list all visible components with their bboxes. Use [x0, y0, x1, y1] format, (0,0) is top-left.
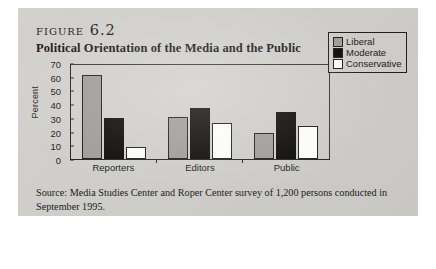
bar-liberal-editors[interactable] — [168, 117, 188, 160]
y-axis-label: Percent — [30, 86, 40, 118]
plot-area — [70, 64, 330, 160]
legend-item-liberal[interactable]: Liberal — [333, 36, 401, 47]
legend-item-moderate[interactable]: Moderate — [333, 47, 401, 58]
legend-swatch-conservative-icon — [333, 59, 343, 69]
x-axis-labels: ReportersEditorsPublic — [70, 162, 330, 176]
bar-liberal-public[interactable] — [254, 133, 274, 159]
bar-conservative-public[interactable] — [298, 126, 318, 159]
bar-moderate-public[interactable] — [276, 112, 296, 159]
legend-label: Moderate — [346, 47, 386, 58]
y-axis-ticks: 010203040506070 — [42, 64, 66, 160]
y-tick-label: 40 — [50, 100, 61, 111]
y-tick-label: 70 — [50, 59, 61, 70]
bar-liberal-reporters[interactable] — [82, 75, 102, 159]
legend-swatch-moderate-icon — [333, 48, 343, 58]
bar-group — [243, 65, 329, 159]
legend-item-conservative[interactable]: Conservative — [333, 58, 401, 69]
figure-panel: figure 6.2 Political Orientation of the … — [18, 8, 418, 216]
bar-moderate-reporters[interactable] — [104, 118, 124, 159]
figure-title: Political Orientation of the Media and t… — [36, 41, 301, 56]
bar-group — [157, 65, 243, 159]
y-tick-label: 10 — [50, 141, 61, 152]
legend-label: Liberal — [346, 36, 375, 47]
y-tick-label: 50 — [50, 86, 61, 97]
bar-groups — [71, 65, 329, 159]
y-tick-label: 60 — [50, 72, 61, 83]
x-tick-label-reporters: Reporters — [70, 162, 157, 176]
bar-chart: Percent 010203040506070 ReportersEditors… — [32, 64, 404, 176]
legend-swatch-liberal-icon — [333, 37, 343, 47]
bar-conservative-editors[interactable] — [212, 123, 232, 159]
y-tick-label: 30 — [50, 113, 61, 124]
y-tick-label: 20 — [50, 127, 61, 138]
chart-legend: LiberalModerateConservative — [328, 32, 407, 73]
bar-group — [71, 65, 157, 159]
x-tick-label-editors: Editors — [157, 162, 244, 176]
bar-conservative-reporters[interactable] — [126, 147, 146, 159]
x-tick-label-public: Public — [243, 162, 330, 176]
y-tick-label: 0 — [56, 155, 61, 166]
legend-label: Conservative — [346, 58, 401, 69]
bar-moderate-editors[interactable] — [190, 108, 210, 159]
figure-number-label: figure 6.2 — [36, 22, 116, 38]
source-note: Source: Media Studies Center and Roper C… — [36, 186, 388, 214]
